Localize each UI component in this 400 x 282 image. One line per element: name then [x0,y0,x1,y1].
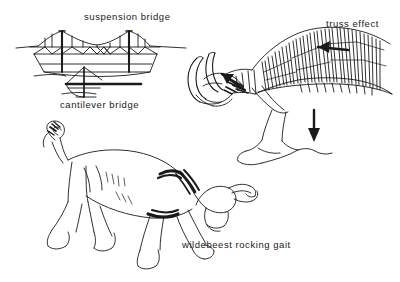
label-cantilever-bridge: cantilever bridge [60,100,139,110]
label-suspension-bridge: suspension bridge [84,12,170,22]
figure-root: suspension bridge cantilever bridge trus… [0,0,400,282]
label-truss-effect: truss effect [326,19,379,29]
label-wildebeest-rocking-gait: wildebeest rocking gait [182,240,291,250]
